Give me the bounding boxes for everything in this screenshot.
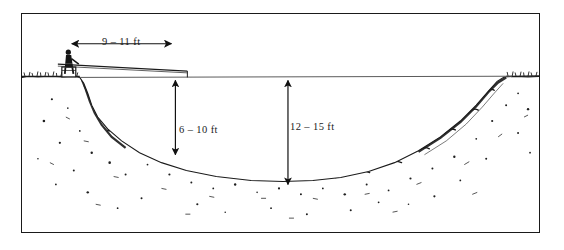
left-bank-slope bbox=[82, 79, 126, 147]
pond-cross-section-illustration bbox=[22, 14, 539, 232]
pond-cross-section-screenshot: 9 – 11 ft 6 – 10 ft 12 – 15 ft bbox=[0, 0, 564, 250]
fishing-rod-line bbox=[58, 64, 187, 71]
dimension-label-depth-deep: 12 – 15 ft bbox=[290, 121, 335, 132]
dimension-annotations bbox=[72, 44, 288, 185]
dimension-label-depth-shallow: 6 – 10 ft bbox=[179, 124, 218, 135]
water-surface-line bbox=[80, 76, 512, 77]
dimension-label-span-width: 9 – 11 ft bbox=[102, 36, 141, 47]
shoreline-grass-right bbox=[506, 71, 539, 76]
figure-frame: 9 – 11 ft 6 – 10 ft 12 – 15 ft bbox=[21, 13, 540, 233]
pond-bottom-contour bbox=[22, 76, 539, 181]
soil-texture-flecks bbox=[50, 115, 528, 218]
soil-texture-stipple bbox=[37, 92, 531, 215]
ground-and-water bbox=[22, 71, 539, 218]
soil-texture-clumps bbox=[108, 89, 495, 179]
